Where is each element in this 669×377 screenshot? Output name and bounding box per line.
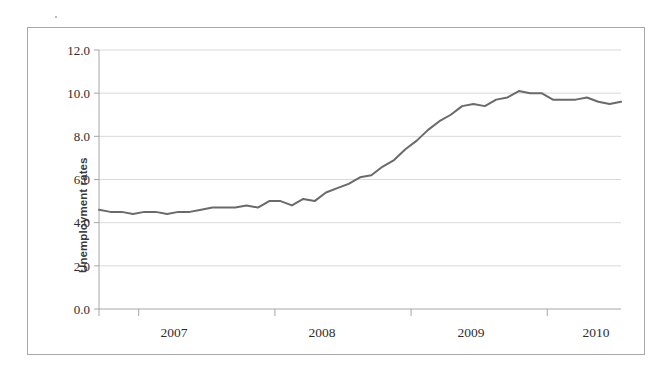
chart-figure: Unemployment rates 12.0 10.0 8.0 6.0 4.0… — [0, 0, 669, 377]
chart-frame: Unemployment rates 12.0 10.0 8.0 6.0 4.0… — [27, 27, 645, 355]
plot-area — [28, 28, 645, 355]
data-line-unemployment-rate — [99, 91, 621, 214]
gridlines — [99, 50, 621, 309]
x-axis-ticks — [99, 309, 547, 316]
y-axis-ticks — [94, 50, 99, 309]
speck-artifact — [55, 16, 57, 18]
